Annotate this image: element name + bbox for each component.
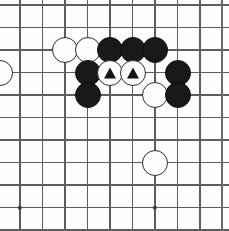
black-stone[interactable] — [75, 82, 101, 108]
white-stone[interactable] — [142, 150, 168, 176]
grid-line-vertical-5 — [132, 0, 134, 231]
grid-line-vertical-6 — [154, 0, 156, 231]
white-stone-left-edge[interactable] — [0, 60, 13, 86]
grid-line-horizontal-10 — [0, 229, 229, 231]
grid-line-horizontal-9 — [0, 207, 229, 209]
grid-line-horizontal-8 — [0, 184, 229, 186]
grid-line-vertical-1 — [42, 0, 44, 231]
black-stone[interactable] — [142, 37, 168, 63]
triangle-marker-icon — [104, 68, 116, 79]
grid-line-horizontal-6 — [0, 139, 229, 141]
grid-line-horizontal-7 — [0, 162, 229, 164]
hoshi-right — [153, 205, 157, 209]
grid-line-vertical-7 — [177, 0, 179, 231]
go-board[interactable] — [0, 0, 229, 231]
grid-line-vertical-0 — [19, 0, 21, 231]
go-board-diagram — [0, 0, 229, 231]
grid-line-vertical-9 — [221, 0, 223, 231]
triangle-marker-icon — [127, 68, 139, 79]
grid-line-vertical-8 — [199, 0, 201, 231]
grid-line-vertical-4 — [109, 0, 111, 231]
black-stone[interactable] — [165, 82, 191, 108]
grid-line-vertical-3 — [87, 0, 89, 231]
hoshi-left — [18, 205, 22, 209]
grid-line-horizontal-1 — [0, 27, 229, 29]
grid-line-vertical-2 — [64, 0, 66, 231]
white-stone-marked[interactable] — [120, 60, 146, 86]
grid-line-horizontal-5 — [0, 117, 229, 119]
grid-line-horizontal-4 — [0, 94, 229, 96]
grid-line-horizontal-0 — [0, 4, 229, 6]
